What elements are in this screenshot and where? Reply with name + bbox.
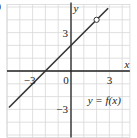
x-axis-label: x [123, 58, 129, 70]
x-tick-label: 0 [63, 74, 69, 86]
open-circle-marker [94, 17, 99, 22]
y-tick-label: 3 [63, 27, 69, 39]
x-tick-label: −3 [24, 74, 36, 86]
y-tick-label: −3 [56, 103, 68, 115]
x-tick-label: 3 [107, 74, 113, 86]
y-axis-label: y [73, 2, 79, 14]
panel-label: ) [0, 1, 1, 11]
function-graph: −3033−3 x y y = f(x) ) [0, 0, 137, 138]
function-label: y = f(x) [87, 94, 121, 107]
